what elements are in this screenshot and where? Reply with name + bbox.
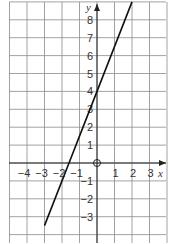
y-tick-label: −3: [80, 211, 93, 223]
y-tick-label: 1: [87, 139, 93, 151]
y-tick-label: 5: [87, 68, 93, 80]
x-tick-label: −3: [35, 167, 48, 179]
x-tick-label: 1: [112, 167, 118, 179]
y-tick-label: 8: [87, 14, 93, 26]
y-tick-label: −2: [80, 193, 93, 205]
y-axis-label: y: [85, 1, 91, 13]
x-axis-label: x: [157, 167, 163, 179]
y-tick-label: 7: [87, 32, 93, 44]
x-tick-label: 2: [130, 167, 136, 179]
x-tick-label: −4: [18, 167, 31, 179]
y-tick-label: 4: [87, 85, 93, 97]
y-tick-label: 2: [87, 121, 93, 133]
x-axis-arrow-icon: [159, 160, 166, 166]
y-tick-label: −1: [80, 175, 93, 187]
x-tick-label: 3: [147, 167, 153, 179]
y-axis-arrow-icon: [94, 4, 100, 11]
line-graph: x y −4−3−2−1123 87654321−1−2−3: [0, 0, 170, 244]
y-tick-label: 6: [87, 50, 93, 62]
